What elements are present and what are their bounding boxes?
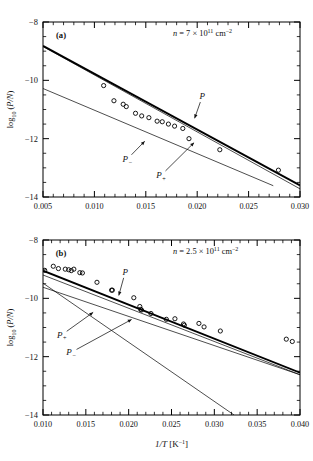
- xtick-label: 0.030: [205, 420, 223, 429]
- plot-frame-b: [43, 240, 300, 415]
- data-point: [160, 120, 164, 124]
- data-point: [187, 137, 191, 141]
- curve-label-P: P: [199, 91, 206, 101]
- xtick-label: 0.030: [291, 202, 309, 211]
- xtick-label: 0.035: [248, 420, 266, 429]
- data-point: [181, 126, 185, 130]
- data-point: [80, 271, 84, 275]
- density-annotation-a: n = 7 × 1011 cm−2: [173, 28, 232, 38]
- data-point: [56, 266, 60, 270]
- data-point: [132, 296, 136, 300]
- data-point: [172, 124, 176, 128]
- xtick-label: 0.020: [119, 420, 137, 429]
- ytick-label: −8: [29, 236, 38, 245]
- xtick-label: 0.015: [137, 202, 155, 211]
- leader-line-P_plus: [67, 312, 93, 331]
- leader-arrowhead-P: [194, 114, 197, 118]
- xtick-label: 0.020: [188, 202, 206, 211]
- data-point: [284, 337, 288, 341]
- curve-label-P_minus: P−: [65, 347, 76, 359]
- ytick-label: −10: [25, 76, 38, 85]
- curve-label-P_minus: P−: [121, 154, 132, 166]
- data-point: [276, 168, 280, 172]
- panel-label-b: (b): [56, 248, 67, 258]
- xtick-label: 0.010: [34, 420, 52, 429]
- curve-P: [43, 46, 300, 185]
- data-point: [218, 329, 222, 333]
- ytick-label: −14: [25, 193, 39, 202]
- curve-label-P: P: [121, 267, 128, 277]
- data-point: [218, 148, 222, 152]
- data-point: [166, 122, 170, 126]
- data-point: [197, 321, 201, 325]
- data-point: [112, 99, 116, 103]
- data-point: [202, 325, 206, 329]
- xtick-label: 0.040: [291, 420, 309, 429]
- figure-container: 0.0050.0100.0150.0200.0250.030−8−10−12−1…: [0, 0, 313, 461]
- data-point: [155, 119, 159, 123]
- xtick-label: 0.025: [162, 420, 180, 429]
- data-point: [147, 116, 151, 120]
- data-point: [290, 339, 294, 343]
- x-axis-label-b: 1/T [K−1]: [155, 439, 188, 449]
- data-point: [51, 264, 55, 268]
- xtick-label: 0.015: [77, 420, 95, 429]
- leader-line-P_minus: [77, 319, 132, 349]
- xtick-label: 0.005: [34, 202, 52, 211]
- curve-label-P_plus: P+: [56, 330, 67, 342]
- data-point: [140, 114, 144, 118]
- series-layer-a: [43, 46, 300, 189]
- data-point: [124, 104, 128, 108]
- data-point: [133, 111, 137, 115]
- density-annotation-b: n = 2.5 × 1011 cm−2: [173, 246, 238, 256]
- ytick-label: −8: [29, 18, 38, 27]
- leader-line-P_plus: [165, 143, 194, 171]
- ytick-label: −12: [25, 353, 38, 362]
- data-point: [102, 83, 106, 87]
- ytick-label: −10: [25, 294, 38, 303]
- curve-P_plus: [43, 275, 300, 375]
- curve-P_cross: [43, 287, 300, 375]
- panel-b: 0.0100.0150.0200.0250.0300.0350.040−8−10…: [6, 236, 309, 449]
- data-point: [95, 280, 99, 284]
- xtick-label: 0.025: [239, 202, 257, 211]
- curve-label-P_plus: P+: [155, 170, 166, 182]
- panel-a: 0.0050.0100.0150.0200.0250.030−8−10−12−1…: [6, 18, 309, 211]
- ytick-label: −14: [25, 411, 39, 420]
- data-point: [173, 317, 177, 321]
- series-layer-b: [43, 264, 300, 415]
- curve-P_plus: [43, 47, 300, 189]
- xtick-label: 0.010: [85, 202, 103, 211]
- ytick-label: −12: [25, 135, 38, 144]
- y-axis-label-b: log10 (P/N): [6, 309, 17, 347]
- figure-svg: 0.0050.0100.0150.0200.0250.030−8−10−12−1…: [0, 0, 313, 461]
- panel-label-a: (a): [56, 30, 66, 40]
- y-axis-label-a: log10 (P/N): [6, 91, 17, 129]
- curve-P: [43, 271, 300, 373]
- plot-frame-a: [43, 22, 300, 197]
